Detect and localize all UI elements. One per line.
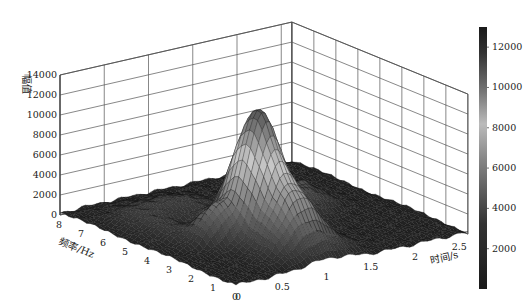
z-gridline (60, 42, 468, 114)
y-axis-label: 频率/Hz (57, 235, 96, 260)
z-axis-label: 幅值 (21, 74, 33, 94)
t-tick-label: 0.5 (275, 281, 290, 292)
surface-mesh (60, 110, 468, 285)
colorbar-ticks: 20004000600080001000012000 (487, 41, 522, 254)
f-tick-label: 5 (122, 246, 128, 257)
f-tick-label: 4 (144, 255, 150, 266)
colorbar-tick-label: 6000 (492, 162, 516, 173)
f-tick-label: 2 (188, 273, 194, 284)
t-tick-label: 1 (323, 271, 329, 282)
colorbar-tick-label: 4000 (492, 202, 516, 213)
z-tick-label: 6000 (33, 149, 57, 160)
z-gridline (60, 22, 468, 94)
t-tick-label: 0 (235, 291, 241, 302)
z-tick-label: 10000 (27, 109, 57, 120)
f-tick-label: 1 (210, 282, 216, 293)
colorbar (479, 27, 487, 289)
z-tick-label: 4000 (33, 169, 57, 180)
t-tick-label: 2 (412, 251, 418, 262)
surface-chart: 0200040006000800010000120001400001234567… (0, 0, 531, 308)
z-tick-label: 8000 (33, 129, 57, 140)
t-tick-label: 1.5 (363, 261, 378, 272)
x-axis-label: 时间/s (429, 248, 459, 266)
f-tick-label: 3 (166, 264, 172, 275)
colorbar-tick-label: 10000 (492, 81, 522, 92)
f-tick-label: 7 (78, 228, 84, 239)
f-tick-label: 8 (56, 219, 62, 230)
colorbar-tick-label: 2000 (492, 243, 516, 254)
f-tick-label: 6 (100, 237, 106, 248)
colorbar-tick-label: 12000 (492, 41, 522, 52)
colorbar-tick-label: 8000 (492, 122, 516, 133)
z-tick-label: 2000 (33, 189, 57, 200)
